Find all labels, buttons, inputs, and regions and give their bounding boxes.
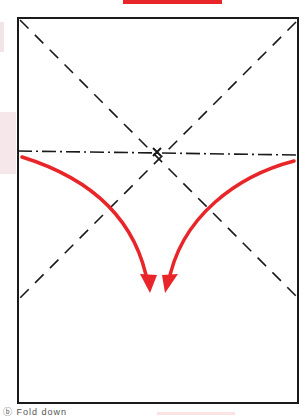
paper-sheet xyxy=(18,18,298,403)
caption-text: ⓑ Fold down xyxy=(3,405,67,418)
